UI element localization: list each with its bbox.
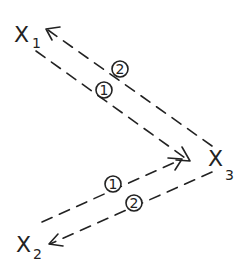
node-x2-label: X [16, 232, 31, 257]
node-x3: X 3 [208, 146, 234, 183]
diagram-canvas: X 1 X 3 X 2 2 1 1 2 [0, 0, 248, 270]
node-x1-label: X [14, 22, 29, 47]
edge-x2-to-x3: 1 [42, 158, 182, 222]
edge-x3-to-x1: 2 [46, 27, 212, 146]
node-x2: X 2 [16, 232, 42, 262]
arrowhead-icon [49, 234, 63, 246]
node-x3-subscript: 3 [225, 167, 234, 183]
node-x3-label: X [208, 146, 223, 171]
edge-label: 1 [100, 82, 109, 98]
edge-label: 2 [116, 61, 125, 77]
node-x1-subscript: 1 [32, 35, 41, 51]
edge-label: 2 [130, 195, 139, 211]
edge-label: 1 [109, 176, 118, 192]
node-x2-subscript: 2 [33, 246, 42, 262]
node-x1: X 1 [14, 22, 41, 51]
edge-line [48, 30, 212, 146]
